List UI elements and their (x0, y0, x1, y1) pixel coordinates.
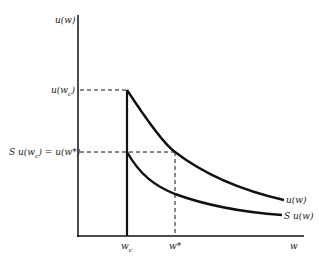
curve-s-u-w-label: S u(w) (284, 211, 314, 221)
u-wc-label: u(wc) (51, 85, 75, 99)
curve-u-w-label: u(w) (286, 195, 307, 205)
wstar-tick-label: w* (169, 241, 181, 251)
x-axis-label: w (290, 241, 298, 251)
s-u-wc-label: S u(wc) = u(w*) (9, 147, 80, 161)
curve-s-u-w (127, 152, 282, 215)
utility-diagram (0, 0, 319, 256)
curve-u-w (127, 90, 284, 200)
wc-tick-label: wc (121, 241, 132, 255)
y-axis-label: u(w) (55, 15, 76, 25)
